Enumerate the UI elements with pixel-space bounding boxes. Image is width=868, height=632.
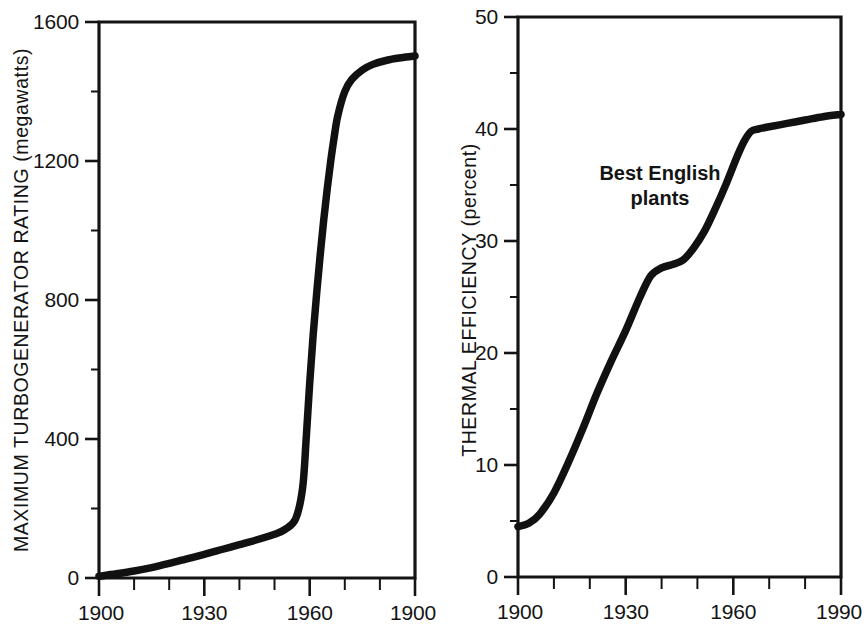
left-data-curve xyxy=(99,56,415,576)
figure-root: MAXIMUM TURBOGENERATOR RATING (megawatts… xyxy=(0,0,868,632)
left-y-major-ticks xyxy=(85,22,99,578)
right-x-tick-label-1930: 1930 xyxy=(603,600,649,623)
left-y-tick-label-1200: 1200 xyxy=(33,149,79,172)
annotation-line-2: plants xyxy=(631,187,690,209)
right-y-tick-label-10: 10 xyxy=(475,453,498,476)
chart-panel-left: MAXIMUM TURBOGENERATOR RATING (megawatts… xyxy=(0,0,440,632)
right-x-major-ticks xyxy=(518,577,841,595)
left-x-tick-label-1900: 1900 xyxy=(78,601,124,624)
left-y-tick-label-400: 400 xyxy=(45,427,79,450)
left-y-tick-label-800: 800 xyxy=(45,288,79,311)
left-x-major-ticks xyxy=(99,578,415,596)
right-annotation: Best English plants xyxy=(599,162,720,209)
right-y-axis-title: THERMAL EFFICIENCY (percent) xyxy=(458,143,480,457)
right-y-tick-label-50: 50 xyxy=(475,5,498,28)
left-y-tick-label-0: 0 xyxy=(68,566,79,589)
right-y-tick-label-20: 20 xyxy=(475,341,498,364)
right-y-tick-label-0: 0 xyxy=(487,565,498,588)
left-x-tick-label-1990: 1900 xyxy=(390,601,436,624)
right-y-tick-label-30: 30 xyxy=(475,229,498,252)
right-x-minor-ticks xyxy=(554,577,805,589)
left-x-tick-label-1960: 1960 xyxy=(287,601,333,624)
right-chart-svg: THERMAL EFFICIENCY (percent) xyxy=(440,0,868,632)
right-x-tick-label-1900: 1900 xyxy=(497,600,543,623)
left-chart-svg: MAXIMUM TURBOGENERATOR RATING (megawatts… xyxy=(0,0,440,632)
right-x-tick-label-1990: 1990 xyxy=(816,600,862,623)
left-y-tick-label-1600: 1600 xyxy=(33,10,79,33)
annotation-line-1: Best English xyxy=(599,162,720,184)
left-y-axis-title: MAXIMUM TURBOGENERATOR RATING (megawatts… xyxy=(10,48,32,552)
left-plot-frame xyxy=(99,22,415,578)
left-x-minor-ticks xyxy=(134,578,380,590)
right-y-tick-label-40: 40 xyxy=(475,117,498,140)
right-plot-frame xyxy=(518,17,841,577)
chart-panel-right: THERMAL EFFICIENCY (percent) xyxy=(440,0,868,632)
right-x-tick-label-1960: 1960 xyxy=(710,600,756,623)
left-x-tick-label-1930: 1930 xyxy=(181,601,227,624)
